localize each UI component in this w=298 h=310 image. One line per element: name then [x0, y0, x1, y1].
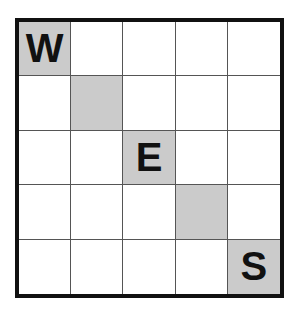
grid-cell[interactable]: [71, 22, 123, 76]
grid-cell[interactable]: [71, 131, 123, 185]
grid-cell[interactable]: [176, 131, 228, 185]
grid-cell[interactable]: W: [19, 22, 71, 76]
puzzle-grid: W E S: [15, 18, 284, 298]
grid-cell[interactable]: [19, 240, 71, 294]
grid-cell[interactable]: [19, 131, 71, 185]
grid-cell[interactable]: [176, 22, 228, 76]
grid-cell[interactable]: [176, 76, 228, 130]
grid-cell[interactable]: [176, 240, 228, 294]
grid-cell[interactable]: [19, 185, 71, 239]
grid-cell[interactable]: [228, 22, 280, 76]
grid-cell[interactable]: [123, 240, 175, 294]
grid-cell[interactable]: [228, 185, 280, 239]
grid-cell[interactable]: [19, 76, 71, 130]
grid-cell[interactable]: [228, 76, 280, 130]
grid-cell[interactable]: [228, 131, 280, 185]
grid-cell[interactable]: S: [228, 240, 280, 294]
grid-cell[interactable]: [123, 22, 175, 76]
grid-cell[interactable]: [71, 76, 123, 130]
grid-cell[interactable]: [71, 185, 123, 239]
grid-cell[interactable]: [176, 185, 228, 239]
grid-cell[interactable]: [71, 240, 123, 294]
grid-cell[interactable]: [123, 76, 175, 130]
grid-cell[interactable]: [123, 185, 175, 239]
grid-cell[interactable]: E: [123, 131, 175, 185]
